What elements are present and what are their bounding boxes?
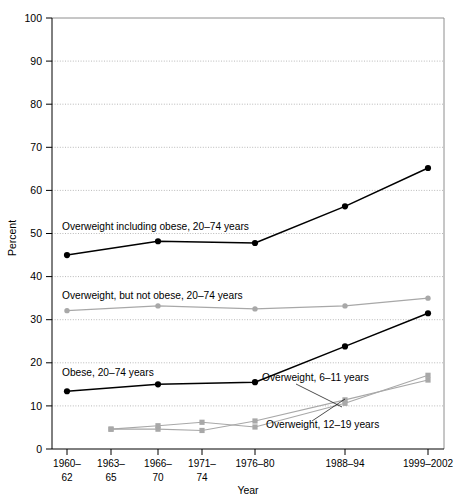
ytick-label-40: 40 bbox=[30, 270, 42, 282]
data-point bbox=[155, 423, 160, 428]
overweight-obesity-line-chart: 0 10 20 30 40 50 60 70 80 90 100 1960– 6… bbox=[0, 0, 465, 498]
data-point bbox=[252, 240, 258, 246]
data-point bbox=[252, 379, 258, 385]
gridlines bbox=[52, 61, 444, 406]
leader-overweight-12-19 bbox=[312, 399, 345, 421]
data-point bbox=[425, 310, 431, 316]
ytick-label-90: 90 bbox=[30, 55, 42, 67]
data-point bbox=[342, 303, 347, 308]
xtick-label-3-line1: 1971– bbox=[188, 458, 216, 469]
ytick-label-0: 0 bbox=[36, 443, 42, 455]
data-point bbox=[425, 377, 430, 382]
leader-overweight-6-11 bbox=[296, 384, 342, 407]
annotation-leaders bbox=[296, 384, 345, 421]
series-label-overweight-not-obese: Overweight, but not obese, 20–74 years bbox=[62, 290, 243, 301]
data-point bbox=[342, 343, 348, 349]
data-point bbox=[155, 381, 161, 387]
xtick-label-4: 1976–80 bbox=[236, 458, 275, 469]
series-label-obese: Obese, 20–74 years bbox=[62, 367, 154, 378]
xtick-label-3-line2: 74 bbox=[196, 472, 208, 483]
y-axis-title: Percent bbox=[6, 220, 18, 256]
ytick-label-60: 60 bbox=[30, 184, 42, 196]
data-point bbox=[342, 203, 348, 209]
chart-container: 0 10 20 30 40 50 60 70 80 90 100 1960– 6… bbox=[0, 0, 465, 498]
xtick-label-0-line1: 1960– bbox=[53, 458, 81, 469]
ytick-label-50: 50 bbox=[30, 227, 42, 239]
data-point bbox=[199, 420, 204, 425]
data-point bbox=[64, 252, 70, 258]
series-line-2 bbox=[67, 313, 428, 391]
ytick-label-30: 30 bbox=[30, 313, 42, 325]
series-2 bbox=[64, 310, 431, 394]
series-labels: Overweight including obese, 20–74 years … bbox=[62, 221, 379, 430]
x-axis-title: Year bbox=[237, 484, 259, 496]
data-point bbox=[425, 165, 431, 171]
ytick-label-20: 20 bbox=[30, 356, 42, 368]
data-point bbox=[425, 373, 430, 378]
xtick-label-2-line1: 1966– bbox=[144, 458, 172, 469]
ytick-label-80: 80 bbox=[30, 98, 42, 110]
data-point bbox=[252, 424, 257, 429]
x-axis-tick-labels: 1960– 62 1963– 65 1966– 70 1971– 74 1976… bbox=[53, 458, 453, 483]
data-point bbox=[342, 401, 347, 406]
y-axis-tick-labels: 0 10 20 30 40 50 60 70 80 90 100 bbox=[24, 12, 42, 455]
ytick-label-100: 100 bbox=[24, 12, 42, 24]
data-point bbox=[155, 238, 161, 244]
series-0 bbox=[64, 165, 431, 258]
series-label-overweight-12-19: Overweight, 12–19 years bbox=[266, 419, 379, 430]
ytick-label-10: 10 bbox=[30, 400, 42, 412]
xtick-label-5: 1988–94 bbox=[326, 458, 365, 469]
data-point bbox=[108, 427, 113, 432]
xtick-label-6: 1999–2002 bbox=[403, 458, 453, 469]
data-point bbox=[252, 418, 257, 423]
data-point bbox=[155, 303, 160, 308]
xtick-label-1-line1: 1963– bbox=[97, 458, 125, 469]
data-point bbox=[425, 295, 430, 300]
xtick-label-2-line2: 70 bbox=[152, 472, 164, 483]
series-line-0 bbox=[67, 168, 428, 255]
data-point bbox=[252, 306, 257, 311]
y-axis-ticks bbox=[46, 18, 52, 449]
data-point bbox=[64, 308, 69, 313]
data-point bbox=[199, 428, 204, 433]
xtick-label-0-line2: 62 bbox=[61, 472, 73, 483]
ytick-label-70: 70 bbox=[30, 141, 42, 153]
series-label-overweight-including-obese: Overweight including obese, 20–74 years bbox=[62, 221, 249, 232]
xtick-label-1-line2: 65 bbox=[105, 472, 117, 483]
series-label-overweight-6-11: Overweight, 6–11 years bbox=[262, 372, 369, 383]
x-axis-ticks bbox=[67, 449, 428, 455]
data-point bbox=[64, 388, 70, 394]
